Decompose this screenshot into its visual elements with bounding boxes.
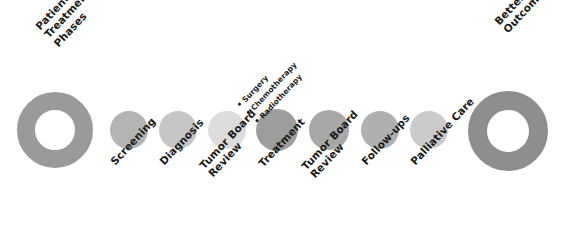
start-donut-label: Patient Treatment Phases — [33, 0, 102, 49]
end-donut-label: Better Patient Outcome — [492, 0, 567, 36]
bullet-dot-icon — [246, 110, 250, 114]
patient-treatment-phases-diagram: Patient Treatment Phases ScreeningDiagno… — [0, 0, 567, 252]
end-donut — [468, 91, 548, 171]
start-donut — [17, 92, 93, 168]
bullet-dot-icon — [255, 118, 259, 122]
bullet-dot-icon — [238, 102, 242, 106]
